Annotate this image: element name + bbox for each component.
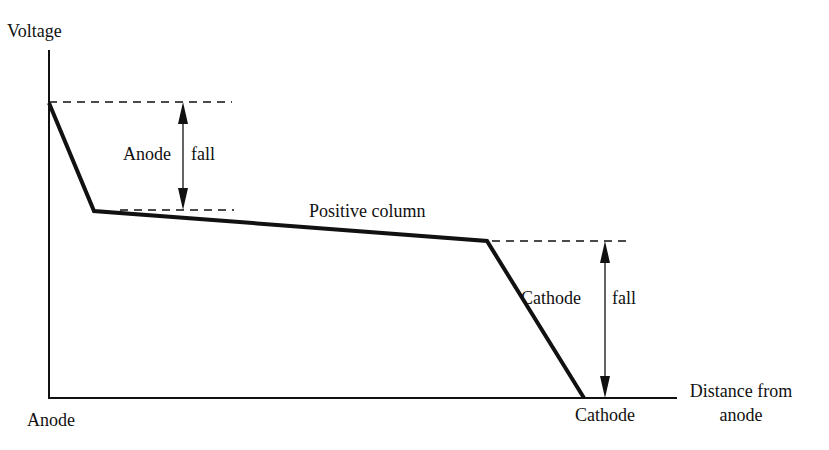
anode-fall-arrow-up-icon (178, 102, 188, 124)
cathode-fall-arrow-down-icon (600, 376, 610, 398)
anode-fall-label-left: Anode (123, 144, 171, 164)
y-axis-label: Voltage (7, 21, 62, 41)
cathode-fall-label-right: fall (612, 288, 636, 308)
x-axis-label-line1: Distance from (686, 381, 796, 401)
cathode-fall-label-left: Cathode (521, 288, 581, 308)
cathode-fall-arrow-up-icon (600, 241, 610, 263)
anode-fall-label-right: fall (191, 144, 215, 164)
x-end-label: Cathode (575, 405, 635, 425)
x-axis-label-line2: anode (686, 405, 796, 425)
anode-fall-arrow-down-icon (178, 188, 188, 210)
x-start-label: Anode (27, 410, 75, 430)
positive-column-label: Positive column (309, 201, 426, 221)
